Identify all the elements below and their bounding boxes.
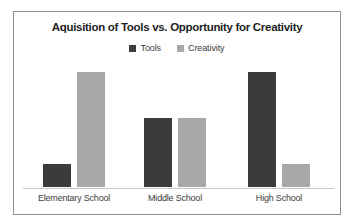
legend-item-creativity: Creativity (177, 43, 225, 53)
category-label-middle: Middle School (115, 193, 235, 203)
chart-frame: Aquisition of Tools vs. Opportunity for … (13, 11, 341, 215)
legend-item-tools: Tools (129, 43, 161, 53)
category-label-high: High School (219, 193, 339, 203)
bar-group-middle (144, 118, 206, 187)
legend-swatch-tools-icon (129, 45, 136, 52)
bar-creativity-elementary (77, 72, 105, 187)
bar-tools-elementary (43, 164, 71, 187)
legend: Tools Creativity (14, 43, 340, 53)
bar-tools-middle (144, 118, 172, 187)
chart-title: Aquisition of Tools vs. Opportunity for … (14, 21, 340, 33)
bar-creativity-middle (178, 118, 206, 187)
bar-group-high (248, 72, 310, 187)
bar-tools-high (248, 72, 276, 187)
legend-label-creativity: Creativity (188, 43, 225, 53)
legend-label-tools: Tools (140, 43, 161, 53)
bar-group-elementary (43, 72, 105, 187)
bar-creativity-high (282, 164, 310, 187)
x-axis-line (23, 188, 334, 189)
legend-swatch-creativity-icon (177, 45, 184, 52)
